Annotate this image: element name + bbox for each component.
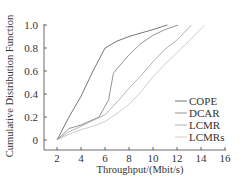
y-tick-label: 0.6	[24, 65, 38, 77]
x-axis-title: Throughput/(Mbit/s)	[97, 164, 184, 176]
series-lines	[57, 25, 205, 140]
series-dcar	[57, 25, 178, 140]
y-tick-label: 0.2	[24, 111, 38, 123]
x-tick-label: 4	[78, 152, 84, 164]
legend-label-cope: COPE	[189, 95, 217, 107]
y-tick-label: 1.0	[24, 19, 38, 31]
legend-label-dcar: DCAR	[189, 107, 220, 119]
y-ticks: 00.20.40.60.81.0	[24, 19, 47, 146]
x-tick-label: 14	[196, 152, 208, 164]
series-cope	[57, 25, 167, 140]
series-lcmr	[57, 25, 191, 140]
y-tick-label: 0	[33, 134, 39, 146]
x-tick-label: 12	[172, 152, 183, 164]
x-tick-label: 8	[126, 152, 132, 164]
cdf-line-chart: 00.20.40.60.81.0 246810121416 COPEDCARLC…	[0, 0, 244, 190]
x-ticks: 246810121416	[54, 147, 231, 164]
legend-label-lcmr: LCMR	[189, 119, 221, 131]
y-tick-label: 0.4	[24, 88, 38, 100]
legend: COPEDCARLCMRLCMRs	[175, 95, 224, 143]
y-tick-label: 0.8	[24, 42, 38, 54]
x-tick-label: 10	[148, 152, 160, 164]
y-axis-title: Cumulative Distribution Function	[4, 14, 15, 157]
series-lcmrs	[57, 25, 205, 140]
legend-label-lcmrs: LCMRs	[189, 131, 224, 143]
x-tick-label: 6	[102, 152, 108, 164]
x-tick-label: 16	[220, 152, 232, 164]
x-tick-label: 2	[54, 152, 60, 164]
